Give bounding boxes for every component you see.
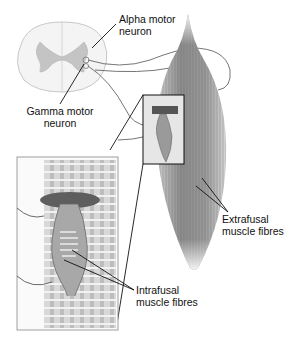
alpha-motor-neuron-label: Alpha motor neuron — [119, 13, 176, 37]
gamma-label-line2: neuron — [25, 117, 95, 129]
spinal-cord-cross-section — [17, 22, 106, 92]
spindle-location-box — [143, 95, 184, 164]
connector-line-top — [110, 95, 143, 150]
extrafusal-label-line2: muscle fibres — [222, 225, 284, 237]
gamma-label-line1: Gamma motor — [25, 105, 95, 117]
extrafusal-muscle-fibres-label: Extrafusal muscle fibres — [222, 213, 284, 237]
alpha-label-line1: Alpha motor — [119, 13, 176, 25]
muscle-spindle-inset — [17, 157, 118, 330]
gamma-motor-neuron-label: Gamma motor neuron — [25, 105, 95, 129]
intrafusal-label-line1: Intrafusal — [136, 284, 198, 296]
intrafusal-muscle-fibres-label: Intrafusal muscle fibres — [136, 284, 198, 308]
alpha-label-line2: neuron — [119, 25, 176, 37]
extrafusal-label-line1: Extrafusal — [222, 213, 284, 225]
intrafusal-label-line2: muscle fibres — [136, 296, 198, 308]
